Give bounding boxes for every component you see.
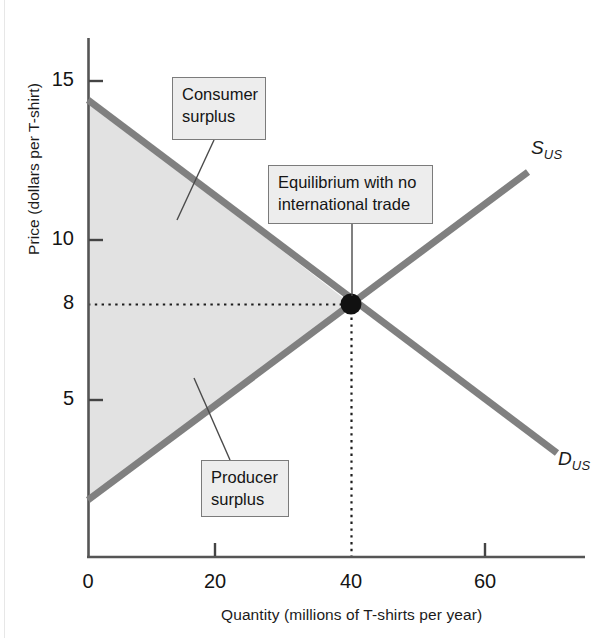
consumer-surplus-callout: Consumer surplus bbox=[172, 77, 266, 140]
x-axis-title: Quantity (millions of T-shirts per year) bbox=[221, 606, 482, 624]
y-tick-label-5: 5 bbox=[34, 387, 74, 410]
y-tick-label-15: 15 bbox=[34, 68, 74, 91]
equilibrium-point-marker bbox=[341, 294, 362, 315]
x-tick-label-40: 40 bbox=[321, 570, 381, 593]
x-tick-label-0: 0 bbox=[58, 570, 118, 593]
demand-curve-label-subscript: US bbox=[572, 458, 591, 473]
plot-canvas bbox=[0, 0, 612, 638]
equilibrium-callout: Equilibrium with no international trade bbox=[268, 165, 433, 224]
supply-demand-figure: Price (dollars per T-shirt) Quantity (mi… bbox=[0, 0, 612, 638]
x-tick-label-60: 60 bbox=[455, 570, 515, 593]
supply-curve-label-subscript: US bbox=[544, 147, 563, 162]
x-tick-label-20: 20 bbox=[185, 570, 245, 593]
supply-curve-label: SUS bbox=[531, 137, 562, 162]
demand-curve-label: DUS bbox=[558, 448, 590, 473]
supply-curve-label-text: S bbox=[531, 137, 544, 158]
y-tick-label-10: 10 bbox=[34, 227, 74, 250]
y-tick-label-8: 8 bbox=[34, 291, 74, 314]
producer-surplus-callout: Producer surplus bbox=[201, 460, 289, 517]
demand-curve-label-text: D bbox=[558, 448, 572, 469]
